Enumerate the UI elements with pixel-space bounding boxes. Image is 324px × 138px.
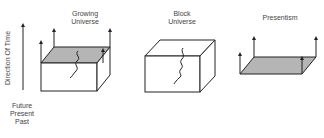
level-future: Future bbox=[4, 102, 40, 110]
block-universe-title: BlockUniverse bbox=[157, 10, 207, 26]
level-past: Past bbox=[4, 118, 40, 126]
level-present: Present bbox=[4, 110, 40, 118]
growing-universe-title: GrowingUniverse bbox=[60, 10, 110, 26]
growing-universe-box bbox=[41, 30, 110, 91]
presentism-plane bbox=[240, 38, 316, 74]
time-axis-label: Direction Of Time bbox=[4, 28, 12, 88]
presentism-title: Presentism bbox=[252, 14, 308, 22]
block-universe-box bbox=[145, 40, 215, 92]
